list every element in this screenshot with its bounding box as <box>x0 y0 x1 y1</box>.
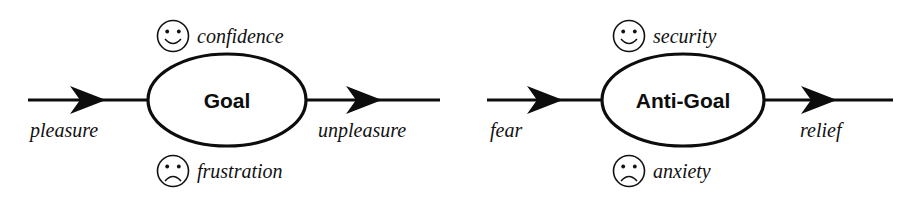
goal-inflow-arrow <box>28 86 148 114</box>
anti-goal-inflow-label: fear <box>490 119 522 142</box>
goal-node-label: Goal <box>204 89 251 112</box>
anti-goal-negative-emotion: anxiety <box>614 156 711 187</box>
anti-goal-diagram: fear Anti-Goal relief security <box>487 21 893 187</box>
goal-outflow-label: unpleasure <box>318 119 406 142</box>
diagram-canvas: pleasure Goal unpleasure confidence <box>0 0 915 207</box>
anti-goal-node-label: Anti-Goal <box>636 89 731 112</box>
goal-negative-label: frustration <box>197 160 283 183</box>
goal-negative-emotion: frustration <box>158 156 283 187</box>
goal-positive-label: confidence <box>197 25 284 48</box>
anti-goal-negative-label: anxiety <box>653 160 711 183</box>
goal-diagram: pleasure Goal unpleasure confidence <box>28 21 440 187</box>
smiley-face-icon <box>614 21 645 52</box>
anti-goal-inflow-arrow <box>487 86 602 114</box>
frowny-face-icon <box>614 156 645 187</box>
anti-goal-positive-label: security <box>653 25 716 48</box>
goal-inflow-label: pleasure <box>28 119 98 142</box>
goal-outflow-arrow <box>306 86 440 114</box>
frowny-face-icon <box>158 156 189 187</box>
smiley-face-icon <box>158 21 189 52</box>
anti-goal-outflow-label: relief <box>800 119 844 142</box>
anti-goal-outflow-arrow <box>764 86 893 114</box>
anti-goal-positive-emotion: security <box>614 21 717 52</box>
goal-positive-emotion: confidence <box>158 21 284 52</box>
